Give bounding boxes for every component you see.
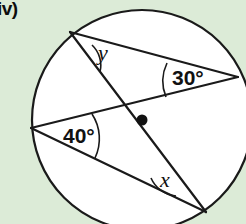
angle-label-y: y [96,40,108,65]
angle-label-40: 40° [63,124,95,147]
part-label: iv) [0,0,18,18]
circle-centre-dot [137,115,148,126]
circle-diagram-svg: y 30° 40° x [0,0,246,224]
geometry-figure: iv) y 30° 40° x [0,0,246,224]
angle-label-x: x [159,167,170,192]
angle-label-30: 30° [172,66,204,89]
